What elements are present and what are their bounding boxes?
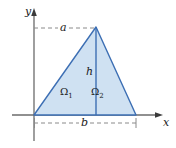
x-axis-arrowhead: [155, 112, 163, 118]
region-label-omega-1: Ω1: [60, 87, 73, 100]
y-axis-label: y: [25, 6, 31, 17]
y-axis-arrowhead: [31, 8, 37, 16]
region-label-omega-2: Ω2: [91, 87, 104, 100]
dimension-label-b: b: [79, 117, 90, 128]
dimension-label-h: h: [84, 66, 95, 77]
dimension-label-a: a: [58, 22, 69, 33]
x-axis-label: x: [163, 117, 169, 128]
region-omega-1-subscript: 1: [68, 92, 72, 100]
region-omega-2-subscript: 2: [99, 92, 103, 100]
triangle-region-figure: y x a b h Ω1 Ω2: [0, 0, 176, 148]
